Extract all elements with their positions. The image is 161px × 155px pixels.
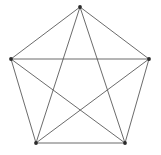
vertex-bottom-left: [34, 141, 38, 145]
edge-bottomright-left: [11, 59, 125, 143]
vertex-right: [147, 57, 151, 61]
vertex-bottom-right: [123, 141, 127, 145]
edge-right-bottomleft: [36, 59, 149, 143]
graph-figure: [0, 0, 161, 155]
edge-top-bottomright: [80, 7, 125, 143]
edge-bottomleft-left: [11, 59, 36, 143]
edge-layer: [11, 7, 149, 143]
vertex-top: [78, 5, 82, 9]
edge-top-right: [80, 7, 149, 59]
edge-right-bottomright: [125, 59, 149, 143]
edge-left-top: [11, 7, 80, 59]
k5-graph-canvas: [0, 0, 161, 155]
vertex-left: [9, 57, 13, 61]
edge-top-bottomleft: [36, 7, 80, 143]
